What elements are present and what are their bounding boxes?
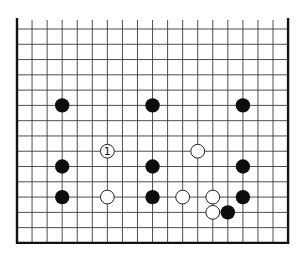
grid-lines (17, 20, 288, 243)
black-stone (145, 159, 159, 173)
black-stone (55, 190, 69, 204)
white-stone-disc (176, 190, 190, 204)
black-stone (145, 190, 159, 204)
white-stone (191, 144, 205, 158)
black-stone (236, 159, 250, 173)
white-stone (176, 190, 190, 204)
move-number-label: 1 (104, 145, 111, 158)
black-stone-disc (236, 98, 250, 112)
black-stone (236, 190, 250, 204)
black-stone (236, 98, 250, 112)
white-stone (206, 205, 220, 219)
black-stone (55, 159, 69, 173)
black-stone-disc (55, 98, 69, 112)
black-stone-disc (145, 190, 159, 204)
black-stone-disc (55, 190, 69, 204)
black-stone (221, 205, 235, 219)
white-stone (206, 190, 220, 204)
black-stone (145, 98, 159, 112)
white-stone-disc (191, 144, 205, 158)
black-stone (55, 98, 69, 112)
black-stone-disc (145, 159, 159, 173)
white-stone-disc (206, 190, 220, 204)
go-board: 1 (0, 0, 304, 256)
black-stone-disc (236, 159, 250, 173)
white-stone: 1 (100, 144, 114, 158)
black-stone-disc (145, 98, 159, 112)
black-stone-disc (221, 205, 235, 219)
white-stone-disc (100, 190, 114, 204)
white-stone-disc (206, 205, 220, 219)
black-stone-disc (236, 190, 250, 204)
black-stone-disc (55, 159, 69, 173)
white-stone (100, 190, 114, 204)
